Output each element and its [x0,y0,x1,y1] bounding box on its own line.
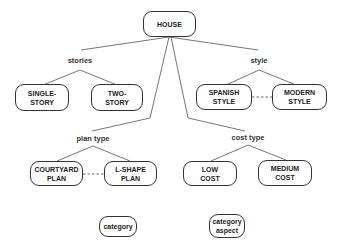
aspect-label-plan-type: plan type [77,134,110,143]
node-medium-cost: MEDIUM COST [258,160,312,186]
node-l-shape-plan: L-SHAPE PLAN [104,161,157,186]
aspect-label-style: style [250,56,267,65]
connector-lines [0,0,338,249]
node-low-cost: LOW COST [183,161,237,186]
aspect-label-cost-type: cost type [232,133,265,142]
legend-category: category [99,216,137,237]
aspect-label-stories: stories [68,56,93,65]
node-single-story: SINGLE- STORY [15,84,69,111]
node-house: HOUSE [143,11,196,37]
node-modern-style: MODERN STYLE [272,84,327,110]
node-two-story: TWO- STORY [91,84,143,111]
legend-category-aspect: category aspect [209,214,245,238]
node-courtyard-plan: COURTYARD PLAN [30,161,83,186]
node-spanish-style: SPANISH STYLE [196,84,252,110]
